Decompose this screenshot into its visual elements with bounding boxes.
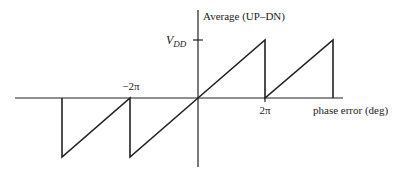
tick-label-2pi: 2π bbox=[259, 104, 271, 116]
tick-label-neg-2pi: −2π bbox=[122, 80, 140, 92]
x-axis-label: phase error (deg) bbox=[313, 104, 388, 117]
vdd-label-sub: DD bbox=[172, 39, 186, 49]
phase-detector-characteristic-diagram: Average (UP–DN) VDD −2π 2π phase error (… bbox=[0, 0, 405, 174]
y-axis-label: Average (UP–DN) bbox=[203, 10, 285, 23]
vdd-label: VDD bbox=[166, 33, 187, 49]
